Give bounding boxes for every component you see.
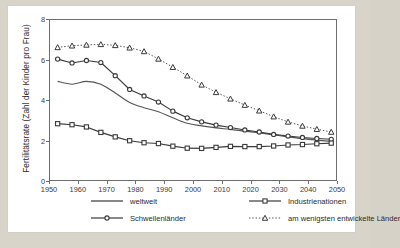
- x-tick-mark: [251, 181, 252, 184]
- x-tick-mark: [222, 181, 223, 184]
- legend-label: weltweit: [130, 197, 157, 206]
- legend-item-2[interactable]: Schwellenländer: [90, 213, 186, 223]
- legend-label: Industrienationen: [288, 197, 346, 206]
- legend-swatch-triangle-icon: [248, 213, 282, 223]
- x-tick-mark: [337, 181, 338, 184]
- x-tick-mark: [78, 181, 79, 184]
- legend-item-3[interactable]: am wenigsten entwickelte Länder: [248, 213, 400, 223]
- legend-swatch-circle-icon: [90, 213, 124, 223]
- x-tick-label: 1950: [41, 185, 57, 194]
- x-tick-label: 2010: [214, 185, 230, 194]
- x-tick-label: 2020: [242, 185, 258, 194]
- series-1: [56, 57, 334, 141]
- legend-label: Schwellenländer: [130, 214, 186, 223]
- x-tick-label: 2050: [329, 185, 345, 194]
- y-tick-mark: [46, 141, 49, 142]
- y-tick-mark: [46, 19, 49, 20]
- y-axis-label: Fertilitätsrate (Zahl der Kinder pro Fra…: [22, 19, 31, 179]
- legend-item-0[interactable]: weltweit: [90, 196, 157, 206]
- y-tick-label: 6: [41, 55, 45, 64]
- x-tick-mark: [135, 181, 136, 184]
- x-tick-mark: [308, 181, 309, 184]
- x-tick-mark: [164, 181, 165, 184]
- y-tick-label: 2: [41, 136, 45, 145]
- x-tick-label: 1980: [127, 185, 143, 194]
- legend-swatch-none-icon: [90, 196, 124, 206]
- y-tick-mark: [46, 100, 49, 101]
- fertility-rate-chart: Fertilitätsrate (Zahl der Kinder pro Fra…: [8, 6, 355, 232]
- y-tick-label: 4: [41, 96, 45, 105]
- x-tick-label: 1960: [70, 185, 86, 194]
- x-tick-mark: [49, 181, 50, 184]
- chart-legend: weltweitIndustrienationenSchwellenländer…: [52, 196, 344, 230]
- x-tick-label: 2040: [300, 185, 316, 194]
- chart-card: Fertilitätsrate (Zahl der Kinder pro Fra…: [8, 6, 355, 232]
- legend-item-1[interactable]: Industrienationen: [248, 196, 346, 206]
- x-tick-label: 1970: [98, 185, 114, 194]
- x-tick-mark: [107, 181, 108, 184]
- x-tick-mark: [193, 181, 194, 184]
- legend-label: am wenigsten entwickelte Länder: [288, 214, 400, 223]
- y-tick-label: 8: [41, 15, 45, 24]
- x-tick-label: 2030: [271, 185, 287, 194]
- x-tick-label: 2000: [185, 185, 201, 194]
- legend-swatch-square-icon: [248, 196, 282, 206]
- x-tick-mark: [279, 181, 280, 184]
- plot-area: 02468 1950196019701980199020002010202020…: [49, 19, 337, 181]
- plot-svg: [49, 19, 337, 181]
- x-tick-label: 1990: [156, 185, 172, 194]
- y-tick-mark: [46, 60, 49, 61]
